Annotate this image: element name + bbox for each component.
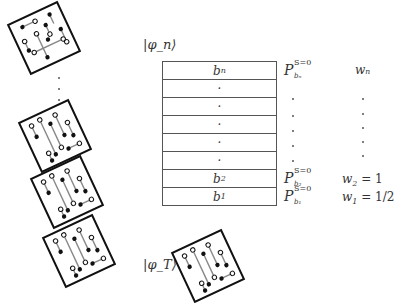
ket-phi-n-label: |φ_n⟩ [143,37,176,52]
row-label-sub: 1 [221,192,226,201]
projector-sup: S=0 [294,58,311,67]
stack-row-bn: bn [163,62,276,80]
ellipsis-dot [58,77,60,79]
ellipsis-dot [58,99,60,101]
projector-sup: S=0 [294,184,311,193]
walker-stack: bn · · · · · b2 b1 [162,61,277,206]
stack-row-ellipsis: · [163,80,276,98]
row-dot: · [218,136,222,150]
ellipsis-dot [292,145,294,147]
config-1-image [49,221,109,281]
ellipsis-dot [58,88,60,90]
row-dot: · [218,100,222,114]
ellipsis-dot [362,127,364,129]
weight-w1: w1 = 1/2 [342,190,394,206]
ellipsis-dot [362,113,364,115]
stack-row-b2: b2 [163,170,276,188]
projector-symbol: P [284,188,293,204]
config-n-image [14,8,74,68]
stack-row-b1: b1 [163,188,276,206]
weight-value: = 1/2 [357,190,394,204]
ellipsis-dot [292,160,294,162]
ellipsis-dot [292,130,294,132]
projector-sup: S=0 [294,166,311,175]
stack-row-ellipsis: · [163,134,276,152]
projector-sub: b₁ [294,198,301,206]
projector-sub: bₙ [294,72,301,80]
ellipsis-dot [292,98,294,100]
projector-symbol: P [284,170,293,186]
stack-row-ellipsis: · [163,116,276,134]
projector-bn: P S=0 bₙ [284,62,293,78]
config-T-image [178,236,238,296]
row-label-sub: n [221,66,226,75]
weight-name: w [342,190,352,204]
stack-row-ellipsis: · [163,152,276,170]
weight-wn: wₙ [355,63,370,77]
config-2-image [37,162,97,222]
weight-w2: w2 = 1 [342,172,383,188]
projector-b1: P S=0 b₁ [284,188,293,204]
row-label-sub: 2 [221,174,226,183]
ellipsis-dot [362,141,364,143]
row-label: b [213,172,221,186]
ellipsis-dot [292,115,294,117]
row-dot: · [218,82,222,96]
projector-symbol: P [284,62,293,78]
weight-name: w [342,172,352,186]
stack-row-ellipsis: · [163,98,276,116]
row-label: b [213,64,221,78]
ellipsis-dot [362,98,364,100]
ellipsis-dot [362,155,364,157]
ket-phi-t-label: |φ_T⟩ [143,257,177,272]
projector-b2: P S=0 b₂ [284,170,293,186]
row-label: b [213,190,221,204]
row-dot: · [218,154,222,168]
weight-value: = 1 [357,172,382,186]
row-dot: · [218,118,222,132]
